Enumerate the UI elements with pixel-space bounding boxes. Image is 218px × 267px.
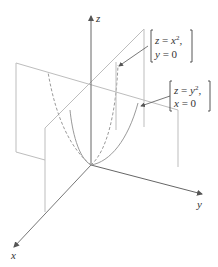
svg-text:y = 0: y = 0 — [154, 48, 178, 60]
x-axis — [14, 165, 91, 247]
y-axis — [91, 165, 202, 194]
svg-text:z = y2,: z = y2, — [173, 84, 201, 96]
curve-z-y2 — [48, 72, 138, 165]
annotation-z-x2: z = x2, y = 0 — [151, 30, 192, 62]
parabola-diagram: z y x z = x2, y = 0 z = y2, x = 0 — [0, 0, 218, 267]
svg-text:z = x2,: z = x2, — [154, 34, 182, 46]
annotation-z-y2: z = y2, x = 0 — [170, 81, 210, 111]
svg-text:x = 0: x = 0 — [173, 97, 197, 109]
x-axis-label: x — [10, 249, 16, 261]
y-axis-label: y — [196, 198, 202, 210]
yz-plane — [16, 63, 178, 167]
xz-plane — [45, 29, 144, 212]
z-axis-label: z — [95, 12, 101, 24]
